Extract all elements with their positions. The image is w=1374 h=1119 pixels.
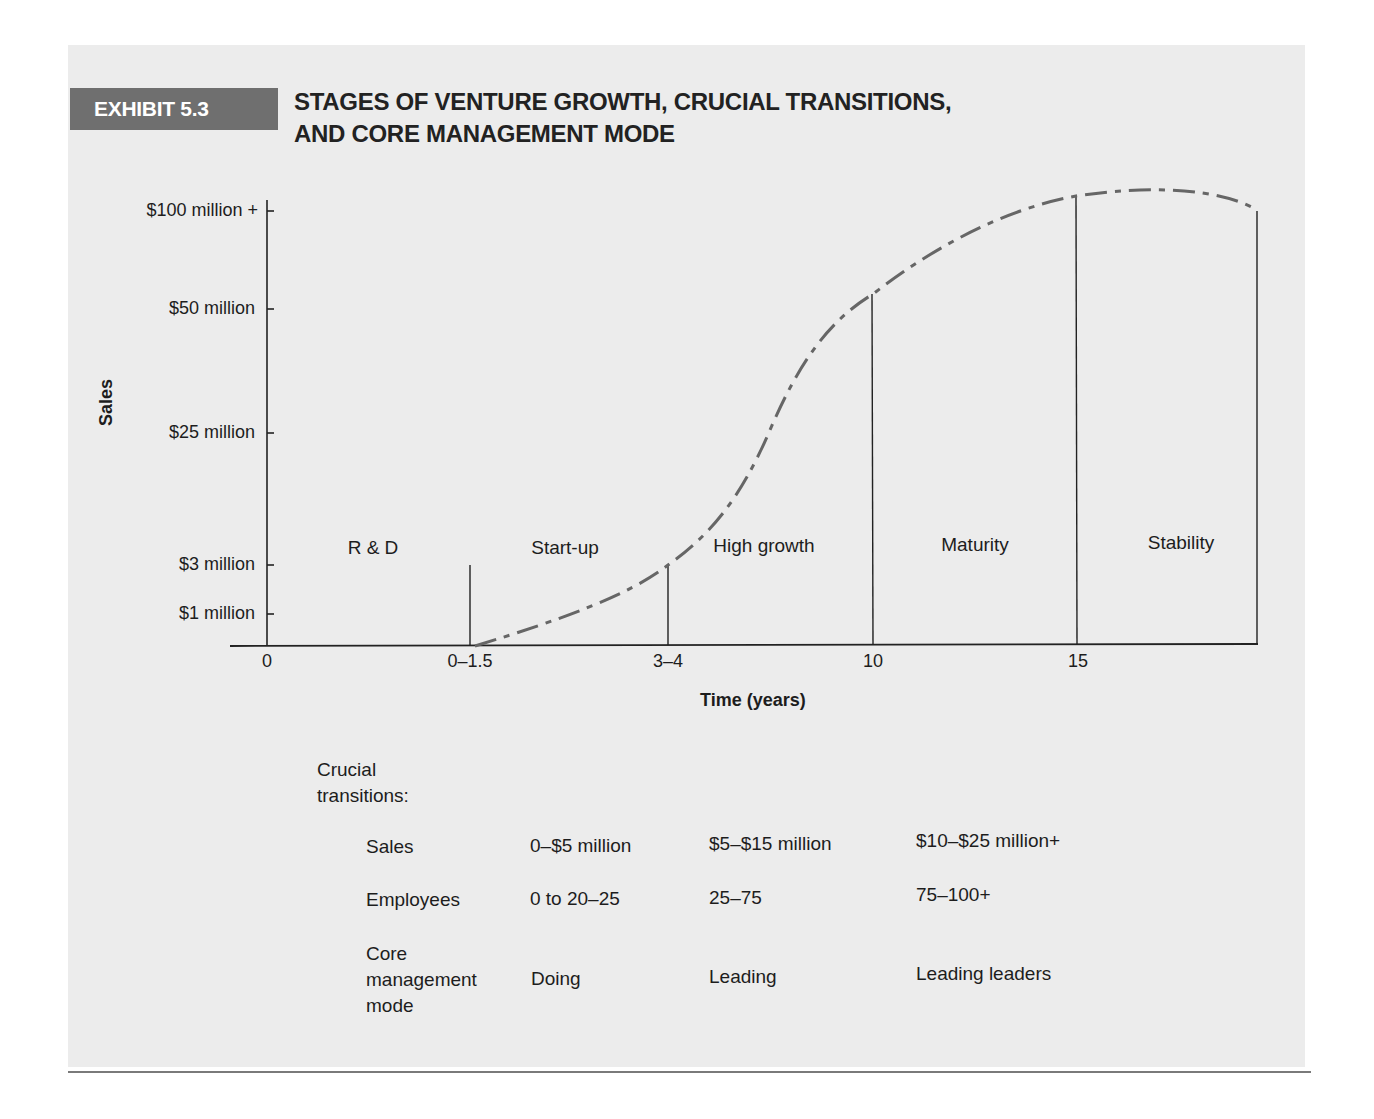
row-label-sales: Sales xyxy=(366,834,414,860)
stage-label-startup: Start-up xyxy=(531,537,599,559)
y-tick-label: $1 million xyxy=(55,603,255,624)
row-label-core-management-mode: Core management mode xyxy=(366,941,477,1019)
y-tick-label: $25 million xyxy=(55,422,255,443)
cell-employees-2: 25–75 xyxy=(709,885,762,911)
x-axis-title: Time (years) xyxy=(700,690,806,711)
x-tick-label: 15 xyxy=(1068,651,1088,672)
cell-sales-3: $10–$25 million+ xyxy=(916,828,1060,854)
y-tick-label: $3 million xyxy=(55,554,255,575)
y-tick-label: $100 million + xyxy=(58,200,258,221)
cell-mode-1: Doing xyxy=(531,966,581,992)
x-axis xyxy=(230,644,1258,646)
cell-sales-1: 0–$5 million xyxy=(530,833,631,859)
y-tick-label: $50 million xyxy=(55,298,255,319)
stage-divider xyxy=(872,294,873,645)
label-line: management xyxy=(366,967,477,993)
stage-divider xyxy=(1076,196,1077,644)
label-line: Core xyxy=(366,941,477,967)
x-tick-label: 0–1.5 xyxy=(447,651,492,672)
cell-sales-2: $5–$15 million xyxy=(709,831,832,857)
y-axis-title: Sales xyxy=(96,379,117,426)
stage-label-high-growth: High growth xyxy=(713,535,814,557)
stage-label-stability: Stability xyxy=(1148,532,1215,554)
row-label-employees: Employees xyxy=(366,887,460,913)
cell-employees-3: 75–100+ xyxy=(916,882,991,908)
sales-curve xyxy=(475,190,1257,646)
cell-mode-2: Leading xyxy=(709,964,777,990)
cell-mode-3: Leading leaders xyxy=(916,961,1051,987)
transitions-heading: Crucial transitions: xyxy=(317,757,409,809)
stage-label-rnd: R & D xyxy=(348,537,399,559)
heading-line-2: transitions: xyxy=(317,783,409,809)
cell-employees-1: 0 to 20–25 xyxy=(530,886,620,912)
x-tick-label: 0 xyxy=(262,651,272,672)
stage-label-maturity: Maturity xyxy=(941,534,1009,556)
x-tick-label: 3–4 xyxy=(653,651,683,672)
heading-line-1: Crucial xyxy=(317,757,409,783)
label-line: mode xyxy=(366,993,477,1019)
x-tick-label: 10 xyxy=(863,651,883,672)
